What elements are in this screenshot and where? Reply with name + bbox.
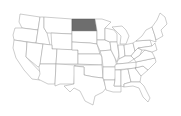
us-map: [0, 0, 181, 116]
state-co[interactable]: [56, 49, 78, 64]
state-nm[interactable]: [55, 64, 75, 86]
state-ks[interactable]: [78, 54, 102, 65]
state-ms[interactable]: [114, 70, 121, 86]
state-nd[interactable]: [72, 19, 97, 31]
state-wy[interactable]: [51, 33, 72, 50]
state-shapes: [13, 13, 167, 105]
state-wa[interactable]: [19, 14, 40, 30]
state-mt[interactable]: [44, 17, 72, 34]
state-fl[interactable]: [124, 82, 150, 102]
state-az[interactable]: [38, 64, 56, 84]
